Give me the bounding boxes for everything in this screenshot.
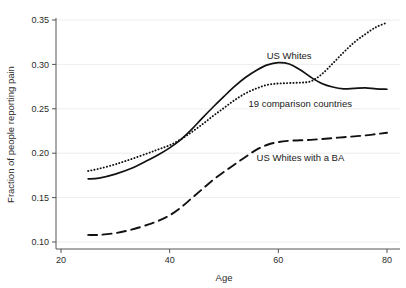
x-tick-label-2: 60: [273, 255, 283, 265]
y-tick-label-2: 0.20: [31, 148, 49, 158]
y-tick-label-4: 0.30: [31, 60, 49, 70]
x-axis-title: Age: [216, 272, 233, 283]
data-series-curves: [88, 23, 387, 235]
x-tick-label-0: 20: [56, 255, 66, 265]
series-line-2: [88, 133, 387, 235]
x-axis-ticks: 20406080: [56, 249, 392, 265]
y-axis-title: Fraction of people reporting pain: [5, 66, 16, 203]
series-label-0: US Whites: [267, 50, 312, 61]
x-tick-label-3: 80: [382, 255, 392, 265]
y-tick-label-0: 0.10: [31, 237, 49, 247]
x-tick-label-1: 40: [165, 255, 175, 265]
y-tick-label-1: 0.15: [31, 193, 49, 203]
axes: [56, 18, 400, 249]
y-tick-label-3: 0.25: [31, 104, 49, 114]
gridlines: [56, 20, 400, 242]
series-label-1: 19 comparison countries: [248, 98, 352, 109]
pain-by-age-chart: 0.100.150.200.250.300.35 20406080 US Whi…: [0, 0, 406, 288]
y-tick-label-5: 0.35: [31, 15, 49, 25]
series-label-2: US Whites with a BA: [257, 152, 345, 163]
y-axis-ticks: 0.100.150.200.250.300.35: [31, 15, 56, 247]
chart-plot-area: 0.100.150.200.250.300.35 20406080 US Whi…: [0, 0, 406, 288]
